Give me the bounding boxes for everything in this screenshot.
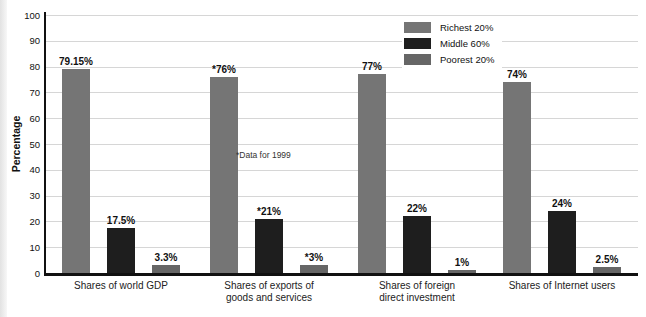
bar-rect — [448, 270, 476, 273]
category-label-2: Shares of exports ofgoods and services — [189, 280, 349, 304]
bar-value-label: 3.3% — [155, 252, 178, 263]
y-axis-line — [44, 12, 46, 274]
bar-poorest-20--group-1: 3.3% — [152, 252, 180, 274]
bar-chart-figure: Percentage 0102030405060708090100 79.15%… — [0, 0, 646, 317]
bar-middle-60--group-3: 22% — [403, 203, 431, 273]
bar-rect — [107, 228, 135, 273]
bar-group-4: 74%24%2.5% — [503, 15, 621, 273]
bar-value-label: 22% — [407, 203, 427, 214]
legend-swatch-icon — [404, 22, 431, 33]
legend-swatch-icon — [404, 38, 431, 49]
bar-richest-20--group-3: 77% — [358, 61, 386, 273]
bar-rect — [210, 77, 238, 273]
category-label-1: Shares of world GDP — [41, 280, 201, 292]
legend-item-middle-60-: Middle 60% — [404, 38, 494, 49]
y-tick-label-30: 30 — [10, 190, 40, 201]
legend-label: Middle 60% — [440, 38, 490, 49]
y-tick-label-10: 10 — [10, 242, 40, 253]
y-tick-label-40: 40 — [10, 164, 40, 175]
bar-middle-60--group-4: 24% — [548, 198, 576, 273]
bar-group-1: 79.15%17.5%3.3% — [62, 15, 180, 273]
bar-value-label: 24% — [552, 198, 572, 209]
legend-label: Richest 20% — [440, 22, 493, 33]
bar-group-2: *76%*21%*3% — [210, 15, 328, 273]
x-axis-line — [44, 273, 638, 276]
y-tick-label-50: 50 — [10, 139, 40, 150]
bars-row: 79.15%17.5%3.3% — [62, 15, 180, 273]
bars-row: 74%24%2.5% — [503, 15, 621, 273]
category-label-3: Shares of foreigndirect investment — [337, 280, 497, 304]
category-label-line: Shares of foreign — [337, 280, 497, 292]
legend-swatch-icon — [404, 54, 431, 65]
y-tick-label-90: 90 — [10, 35, 40, 46]
bar-value-label: 17.5% — [107, 215, 135, 226]
legend: Richest 20%Middle 60%Poorest 20% — [402, 20, 502, 69]
bar-value-label: 74% — [507, 69, 527, 80]
legend-item-poorest-20-: Poorest 20% — [404, 54, 494, 65]
bar-value-label: *76% — [212, 64, 236, 75]
y-tick-label-60: 60 — [10, 113, 40, 124]
bar-poorest-20--group-3: 1% — [448, 257, 476, 273]
y-tick-label-20: 20 — [10, 216, 40, 227]
legend-label: Poorest 20% — [440, 54, 494, 65]
bar-rect — [255, 219, 283, 273]
category-label-line: Shares of exports of — [189, 280, 349, 292]
bar-middle-60--group-2: *21% — [255, 206, 283, 273]
category-label-line: Shares of world GDP — [41, 280, 201, 292]
bar-poorest-20--group-4: 2.5% — [593, 254, 621, 273]
bar-rect — [593, 267, 621, 273]
page-edge-shading — [0, 0, 7, 317]
category-label-4: Shares of Internet users — [482, 280, 642, 292]
legend-item-richest-20-: Richest 20% — [404, 22, 494, 33]
bar-rect — [62, 69, 90, 273]
category-label-line: Shares of Internet users — [482, 280, 642, 292]
y-tick-label-80: 80 — [10, 61, 40, 72]
bar-rect — [503, 82, 531, 273]
bar-middle-60--group-1: 17.5% — [107, 215, 135, 273]
bar-rect — [403, 216, 431, 273]
bar-value-label: *3% — [305, 252, 323, 263]
bar-richest-20--group-2: *76% — [210, 64, 238, 273]
bar-poorest-20--group-2: *3% — [300, 252, 328, 273]
y-tick-label-70: 70 — [10, 87, 40, 98]
bar-rect — [300, 265, 328, 273]
bar-value-label: 77% — [362, 61, 382, 72]
bar-value-label: 79.15% — [59, 56, 93, 67]
bar-rect — [358, 74, 386, 273]
bar-rect — [152, 265, 180, 274]
category-label-line: direct investment — [337, 292, 497, 304]
bar-richest-20--group-4: 74% — [503, 69, 531, 273]
bar-value-label: 2.5% — [596, 254, 619, 265]
footnote-annotation: *Data for 1999 — [236, 150, 291, 160]
bar-value-label: 1% — [455, 257, 469, 268]
y-tick-label-0: 0 — [10, 268, 40, 279]
bar-richest-20--group-1: 79.15% — [62, 56, 90, 273]
y-tick-label-100: 100 — [10, 10, 40, 21]
category-label-line: goods and services — [189, 292, 349, 304]
bars-row: *76%*21%*3% — [210, 15, 328, 273]
bar-value-label: *21% — [257, 206, 281, 217]
bar-rect — [548, 211, 576, 273]
